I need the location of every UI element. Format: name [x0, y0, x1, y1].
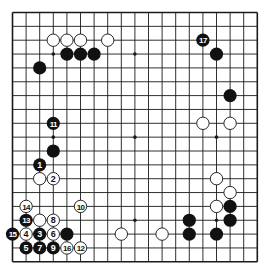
move-17-black-stone: 17: [196, 34, 209, 47]
move-3-black-stone: 3: [33, 228, 46, 241]
black-stone: [210, 47, 223, 60]
move-15-black-stone: 15: [6, 228, 19, 241]
white-stone: [102, 34, 114, 46]
black-stone: [224, 89, 237, 102]
black-stone: [183, 214, 196, 227]
move-number-label: 11: [50, 120, 58, 129]
black-stone: [210, 228, 223, 241]
move-number-label: 2: [51, 174, 56, 184]
move-number-label: 13: [22, 216, 31, 225]
move-13-black-stone: 13: [20, 214, 33, 227]
move-number-label: 6: [51, 229, 56, 239]
move-5-black-stone: 5: [20, 241, 33, 254]
move-8-white-stone: 8: [47, 214, 59, 226]
white-stone: [34, 214, 46, 226]
move-number-label: 8: [51, 215, 56, 225]
white-stone: [224, 117, 236, 129]
black-stone: [88, 47, 101, 60]
hoshi-point: [52, 52, 56, 56]
black-stone: [33, 61, 46, 74]
move-number-label: 16: [63, 244, 72, 253]
black-stone: [60, 228, 73, 241]
move-6-white-stone: 6: [47, 228, 59, 240]
white-stone: [34, 173, 46, 185]
move-number-label: 9: [51, 243, 56, 253]
black-stone: [224, 200, 237, 213]
move-number-label: 1: [37, 160, 42, 170]
move-number-label: 7: [37, 243, 42, 253]
move-9-black-stone: 9: [47, 241, 60, 254]
black-stone: [183, 228, 196, 241]
move-10-white-stone: 10: [74, 200, 86, 212]
move-number-label: 5: [24, 243, 29, 253]
go-board: 1234567891011121314151617: [0, 0, 266, 271]
white-stone: [197, 117, 209, 129]
hoshi-point: [133, 52, 137, 56]
move-4-white-stone: 4: [20, 228, 32, 240]
hoshi-point: [133, 135, 137, 139]
hoshi-point: [52, 135, 56, 139]
move-number-label: 17: [199, 36, 208, 45]
white-stone: [224, 186, 236, 198]
move-2-white-stone: 2: [47, 173, 59, 185]
move-number-label: 14: [22, 203, 31, 212]
black-stone: [224, 214, 237, 227]
move-12-white-stone: 12: [74, 242, 86, 254]
move-16-white-stone: 16: [61, 242, 73, 254]
move-number-label: 10: [77, 203, 86, 212]
white-stone: [210, 173, 222, 185]
white-stone: [210, 200, 222, 212]
black-stone: [60, 47, 73, 60]
move-number-label: 15: [9, 230, 18, 239]
hoshi-point: [215, 135, 219, 139]
move-number-label: 4: [24, 229, 29, 239]
move-14-white-stone: 14: [20, 200, 32, 212]
black-stone: [74, 47, 87, 60]
move-1-black-stone: 1: [33, 158, 46, 171]
hoshi-point: [215, 218, 219, 222]
move-number-label: 12: [77, 244, 86, 253]
white-stone: [61, 34, 73, 46]
white-stone: [156, 228, 168, 240]
white-stone: [74, 34, 86, 46]
white-stone: [115, 228, 127, 240]
black-stone: [47, 144, 60, 157]
hoshi-point: [133, 218, 137, 222]
white-stone: [47, 34, 59, 46]
move-11-black-stone: 11: [47, 117, 60, 130]
move-number-label: 3: [37, 229, 42, 239]
move-7-black-stone: 7: [33, 241, 46, 254]
